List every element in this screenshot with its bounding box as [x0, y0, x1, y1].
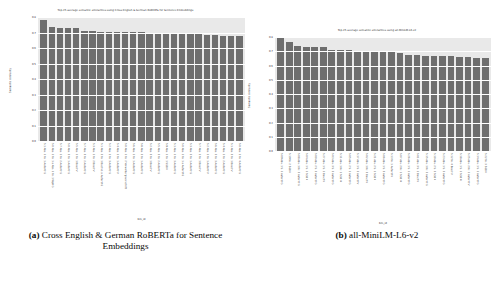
plot-area-b: [275, 37, 491, 151]
x-tick-label: 5.25 Abs. 2 Nr. 1 AufenthV: [467, 153, 469, 185]
x-tick-label: 5.26 Abs. 1 S. 1 AufenthG: [407, 153, 409, 185]
figure-two-subfigures: Top-25 average semantic similarities usi…: [0, 0, 503, 284]
caption-a-tag: (a): [29, 230, 40, 240]
y-tick-label: 0.6: [32, 47, 36, 50]
gridline: [275, 94, 491, 95]
x-tick-label: 5.15 Abs. 1 Nr. 2 AufenthG: [424, 153, 426, 186]
bar: [49, 27, 55, 141]
x-tick-label: 5.1 Abs. 1 Nr. 1 AufenthG: [42, 143, 44, 174]
y-tick-label: 0.6: [269, 64, 273, 67]
x-tick-label: 5.9 Abs. 1 Nr. 1 SGB II: [165, 143, 167, 170]
x-tick-label: 5.13 Nr. 1 AufenthV: [390, 153, 392, 177]
x-tick-label: 5.14 Abs. 1 S. 1 AufenthG: [475, 153, 477, 185]
gridline: [38, 95, 245, 96]
gridline: [275, 151, 491, 152]
x-tick-label: 5.02 Abs. 1 Nr. 3 BeschV: [365, 153, 367, 183]
x-tick-label: 5.0 Abs. 1 Nr. 2 Verwaltungsvorschrift: [124, 143, 126, 189]
gridline: [275, 80, 491, 81]
y-axis-label-a: Semantic similarity: [9, 59, 12, 103]
x-tick-label: 5.6 Abs. 2 Nr. 3 AufenthG: [214, 143, 216, 174]
bar: [286, 42, 293, 151]
x-tick-label: 5.0 Abs. 2 Nr. 1 AufenthG: [67, 143, 69, 174]
x-tick-label: 5.04 Abs. 1 S. 1 SGB II: [305, 153, 307, 180]
gridline: [275, 123, 491, 124]
x-axis-label-b: bm_id: [275, 222, 491, 225]
chart-title-b: Top-25 average semantic similarities usi…: [251, 29, 503, 32]
x-tick-label: 5.19 Nr. 2 SGB II: [288, 153, 290, 173]
bar: [311, 47, 318, 151]
x-tick-label: 5.27 Abs. 1 S. 1 BeschV: [322, 153, 324, 182]
gridline: [275, 137, 491, 138]
x-tick-label: 5.8 Abs. 2 Nr. 1 AufenthG: [140, 143, 142, 174]
gridline: [38, 17, 245, 18]
bar: [40, 20, 46, 141]
bar: [303, 47, 310, 151]
x-tick-label: 5.11 Abs. 1 Nr. 1 SGB III: [339, 153, 341, 182]
y-tick-label: 0.3: [32, 93, 36, 96]
x-tick-label: 5.3 Abs. 1 Nr. 2 BeschV: [91, 143, 93, 171]
subfigure-a: Top-25 average semantic similarities usi…: [0, 0, 251, 284]
x-tick-label: 5.1 Abs. 1 Nr. 3 AufenthG: [173, 143, 175, 174]
bar: [65, 28, 71, 141]
x-tick-label: 5.23 Abs. 1 S. 2 AufenthG: [441, 153, 443, 185]
gridline: [38, 33, 245, 34]
x-tick-label: 5.06 Abs. 1 S. 3 AufenthG: [382, 153, 384, 185]
y-axis-label-b: Semantic similarity: [248, 74, 251, 118]
y-tick-label: 0.4: [32, 78, 36, 81]
x-tick-label: 5.2 Abs. 3 Nr. 1 BeschV: [148, 143, 150, 171]
caption-b-tag: (b): [336, 230, 347, 240]
caption-b-text: all-MiniLM-L6-v2: [349, 230, 418, 240]
caption-b: (b) all-MiniLM-L6-v2: [270, 230, 484, 241]
gridline: [38, 110, 245, 111]
plot-a: Top-25 average semantic similarities usi…: [0, 0, 251, 228]
bar: [57, 28, 63, 141]
gridline: [275, 66, 491, 67]
subfigure-b: Top-25 average semantic similarities usi…: [251, 0, 503, 284]
x-tick-label: 5.7 Abs. 1 Nr. 2 AufenthG: [59, 143, 61, 174]
x-tick-label: 5.17 Abs. 1 S. 2 AufenthV: [356, 153, 358, 184]
y-tick-label: 0.2: [269, 121, 273, 124]
x-tick-label: 5.7 Abs. 1 Nr. 1 BeschV: [197, 143, 199, 171]
x-tick-label: 5.5 Abs. 2 Nr. 2 AufenthG: [157, 143, 159, 174]
x-tick-label: 5.00 Abs. 2 S. 2 AufenthG: [314, 153, 316, 185]
x-tick-label: 5.3 Abs. 2 Nr. 1 AufenthG: [189, 143, 191, 174]
y-tick-label: 0.8: [32, 16, 36, 19]
gridline: [38, 48, 245, 49]
x-tick-label: 5.07 Abs. 2 Nr. 1 SGB III: [399, 153, 401, 182]
y-tick-label: 0.1: [32, 124, 36, 127]
x-tick-label: 5.0 Abs. 1 Nr. 1 a Abs. 1 Nr. 1 WpHG: [51, 143, 53, 187]
y-tick-label: 0.1: [269, 135, 273, 138]
caption-a-text: Cross English & German RoBERTa for Sente…: [42, 230, 222, 251]
x-tick-label: 5.21 Abs. 2 S. 1 SGB II: [373, 153, 375, 180]
y-tick-label: 0.8: [269, 36, 273, 39]
bar: [294, 46, 301, 151]
x-tick-label: 5.1 Abs. 2 Nr. 1 Buchst. a AufenthG: [99, 143, 101, 186]
gridline: [38, 141, 245, 142]
x-tick-label: 5.4 Abs. 1 Nr. 2 AufenthG: [222, 143, 224, 174]
x-tick-label: 5.2 Abs. 1 Nr. 1 AufenthV: [205, 143, 207, 174]
y-tick-label: 0.0: [269, 150, 273, 153]
x-tick-label: 5.10 Abs. 2 S. 2 SGB II: [433, 153, 435, 180]
x-tick-label: 5.7 Abs. 3 Nr. 2 AufenthG: [83, 143, 85, 174]
gridline: [275, 108, 491, 109]
y-tick-label: 0.2: [32, 109, 36, 112]
gridline: [275, 37, 491, 38]
x-tick-label: 5.12 Nr. 4 BeschV: [450, 153, 452, 175]
x-tick-label: 5.18 Abs. 1 S. 1 SGB III: [458, 153, 460, 181]
x-tick-label: 5.5 Abs. 1 Nr. 1 BeschV: [75, 143, 77, 171]
x-tick-label: 5.2 Abs. 1 Nr. 3 AufenthG: [108, 143, 110, 174]
plot-b: Top-25 average semantic similarities usi…: [251, 0, 503, 228]
x-tick-label: 5.1 Abs. 3 Nr. 1 BeschV: [230, 143, 232, 171]
y-tick-label: 0.7: [269, 50, 273, 53]
y-axis-ticks-b: 0.00.10.20.30.40.50.60.70.8: [261, 37, 273, 151]
x-tick-label: 5.01 Abs. 3 S. 1 BeschV: [416, 153, 418, 182]
gridline: [275, 51, 491, 52]
x-tick-label: 5.03 Abs. 3 S. 2 AufenthG: [331, 153, 333, 185]
caption-a: (a) Cross English & German RoBERTa for S…: [19, 230, 233, 252]
y-tick-label: 0.4: [269, 93, 273, 96]
x-tick-label: 5.0 Abs. 1 Nr. 1 a AufenthG: [181, 143, 183, 176]
y-tick-label: 0.0: [32, 140, 36, 143]
y-tick-label: 0.5: [269, 78, 273, 81]
x-tick-label: 5.4 Abs. 1 Nr. 1 AufenthV: [116, 143, 118, 174]
chart-title-a: Top-25 average semantic similarities usi…: [0, 9, 251, 12]
